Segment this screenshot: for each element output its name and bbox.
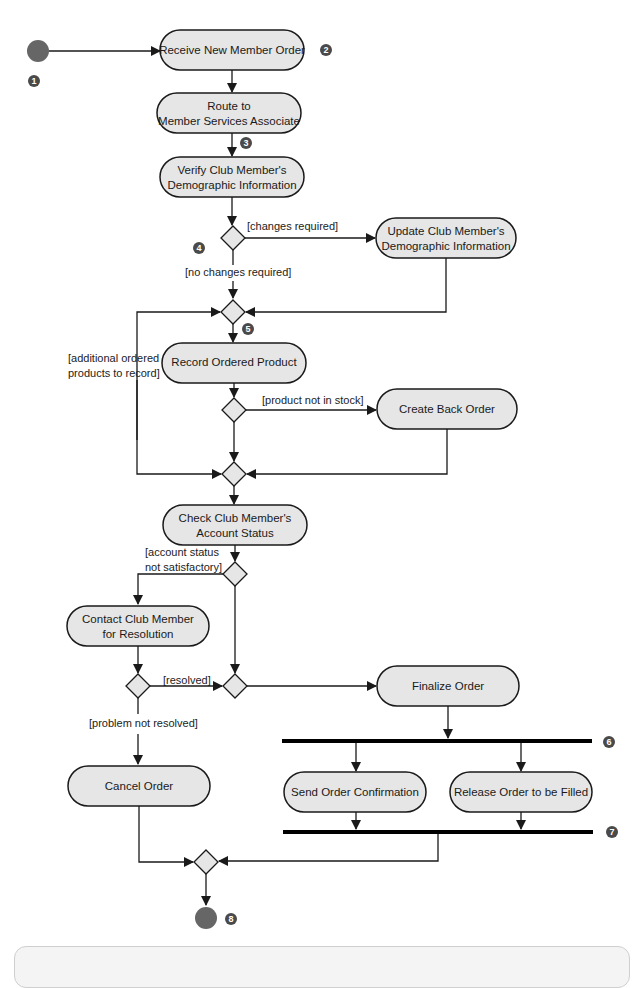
activity-receive-order: Receive New Member Order	[159, 30, 305, 70]
activity-cancel-order: Cancel Order	[68, 766, 210, 806]
svg-text:Create Back Order: Create Back Order	[399, 403, 495, 415]
svg-text:[no changes required]: [no changes required]	[185, 266, 291, 278]
svg-text:not satisfactory]: not satisfactory]	[145, 561, 222, 573]
decision-resolved	[126, 674, 150, 698]
badge-6: 6	[603, 736, 615, 748]
svg-text:products to record]: products to record]	[68, 367, 160, 379]
svg-text:Account Status: Account Status	[196, 527, 274, 539]
activity-finalize-order: Finalize Order	[377, 666, 519, 706]
activity-back-order: Create Back Order	[377, 389, 517, 429]
svg-text:2: 2	[323, 45, 328, 55]
badge-3: 3	[240, 137, 252, 149]
svg-text:Member Services Associate: Member Services Associate	[158, 115, 300, 127]
svg-text:Update Club Member's: Update Club Member's	[387, 225, 504, 237]
caption-panel	[14, 946, 630, 988]
badge-5: 5	[242, 323, 254, 335]
svg-text:Cancel Order: Cancel Order	[105, 780, 174, 792]
activity-route: Route to Member Services Associate	[157, 93, 301, 133]
svg-text:3: 3	[243, 138, 248, 148]
svg-text:Verify Club Member's: Verify Club Member's	[178, 164, 287, 176]
end-node	[195, 907, 217, 929]
activity-release-order: Release Order to be Filled	[450, 772, 592, 812]
svg-text:[additional ordered: [additional ordered	[68, 352, 159, 364]
svg-text:[account status: [account status	[145, 546, 219, 558]
svg-text:6: 6	[606, 737, 611, 747]
badge-7: 7	[606, 826, 618, 838]
merge-record-loop	[221, 300, 245, 324]
svg-text:8: 8	[228, 914, 233, 924]
svg-text:Send Order Confirmation: Send Order Confirmation	[291, 786, 419, 798]
svg-text:Release Order to be Filled: Release Order to be Filled	[454, 786, 588, 798]
svg-text:Demographic Information: Demographic Information	[167, 179, 296, 191]
svg-text:[problem not resolved]: [problem not resolved]	[89, 717, 198, 729]
decision-changes	[221, 226, 245, 250]
svg-text:5: 5	[245, 324, 250, 334]
join-bar	[283, 830, 593, 834]
svg-text:[changes required]: [changes required]	[247, 220, 338, 232]
activity-verify: Verify Club Member's Demographic Informa…	[160, 157, 304, 197]
svg-text:Finalize Order: Finalize Order	[412, 680, 484, 692]
svg-text:4: 4	[196, 243, 201, 253]
start-node	[27, 40, 49, 62]
badge-1: 1	[28, 75, 40, 87]
activity-send-confirmation: Send Order Confirmation	[284, 772, 426, 812]
svg-text:1: 1	[31, 76, 36, 86]
svg-text:[product not in stock]: [product not in stock]	[262, 394, 364, 406]
svg-text:for Resolution: for Resolution	[103, 628, 174, 640]
activity-update: Update Club Member's Demographic Informa…	[376, 218, 516, 258]
fork-bar	[282, 739, 592, 743]
badge-4: 4	[193, 242, 205, 254]
activity-check-account: Check Club Member's Account Status	[163, 505, 307, 545]
svg-text:Record Ordered Product: Record Ordered Product	[171, 356, 297, 368]
merge-finalize	[223, 674, 247, 698]
activity-contact-member: Contact Club Member for Resolution	[67, 606, 209, 646]
svg-text:Check Club Member's: Check Club Member's	[179, 512, 292, 524]
badge-8: 8	[225, 913, 237, 925]
merge-end	[194, 850, 218, 874]
decision-stock	[222, 398, 246, 422]
merge-products	[222, 462, 246, 486]
svg-text:[resolved]: [resolved]	[163, 674, 211, 686]
svg-text:Receive New Member Order: Receive New Member Order	[159, 44, 305, 56]
badge-2: 2	[320, 44, 332, 56]
svg-text:7: 7	[609, 827, 614, 837]
svg-text:Route to: Route to	[207, 100, 250, 112]
svg-text:Contact Club Member: Contact Club Member	[82, 613, 194, 625]
activity-record-product: Record Ordered Product	[162, 343, 306, 383]
svg-text:Demographic Information: Demographic Information	[381, 240, 510, 252]
decision-account	[223, 562, 247, 586]
